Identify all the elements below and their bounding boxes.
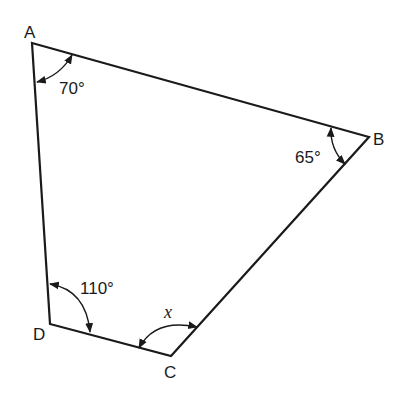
- angle-label-d: 110°: [80, 279, 114, 298]
- angle-arc-b: [331, 128, 345, 164]
- angle-label-a: 70°: [59, 79, 85, 98]
- vertex-label-a: A: [24, 23, 36, 42]
- quadrilateral-diagram: A B C D 70° 65° 110° x: [0, 0, 409, 397]
- vertex-label-c: C: [164, 363, 176, 382]
- vertex-label-b: B: [373, 130, 384, 149]
- angle-arc-a: [37, 55, 72, 82]
- vertex-label-d: D: [33, 325, 45, 344]
- angle-label-b: 65°: [295, 148, 321, 167]
- angle-label-c: x: [163, 302, 172, 322]
